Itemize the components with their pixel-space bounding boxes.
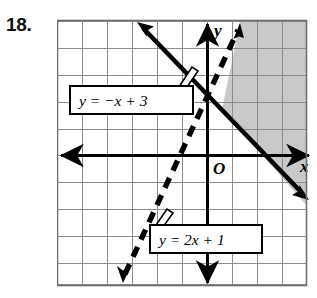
- callout-label-dashed: y = 2x + 1: [157, 231, 225, 248]
- y-axis-label: y: [212, 21, 222, 40]
- problem-number: 18.: [6, 14, 32, 36]
- callout-label-solid: y = −x + 3: [77, 92, 148, 109]
- worksheet-figure-panel: 18.: [0, 0, 317, 298]
- coordinate-graph: y x O y = −x + 3 y = 2x + 1: [57, 19, 317, 287]
- origin-label: O: [213, 159, 225, 178]
- graph-svg: y x O y = −x + 3 y = 2x + 1: [57, 19, 317, 287]
- x-axis-label: x: [299, 157, 309, 176]
